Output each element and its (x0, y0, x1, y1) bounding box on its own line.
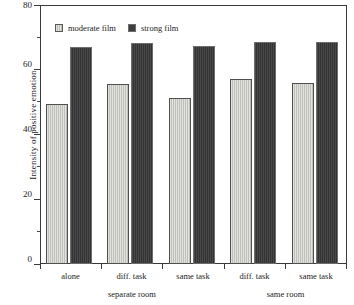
y-tick-label-0: 0 (12, 255, 32, 264)
legend-label-strong: strong film (141, 23, 179, 33)
y-tick-label-20: 20 (12, 190, 32, 199)
legend-swatch-moderate-icon (55, 24, 63, 32)
bar-strong-alone (70, 47, 92, 264)
x-tick-left-edge (40, 264, 41, 269)
bar-moderate-same-diff-task (230, 79, 252, 264)
x-category-label-4: same task (285, 271, 347, 281)
bar-moderate-separate-diff-task (107, 84, 129, 264)
x-tick-4 (285, 264, 286, 269)
legend-entry-moderate-film: moderate film (55, 23, 116, 33)
bar-moderate-separate-same-task (169, 98, 191, 264)
x-category-label-2: same task (162, 271, 224, 281)
x-tick-2 (162, 264, 163, 269)
bar-moderate-same-same-task (292, 83, 314, 264)
bar-moderate-alone (46, 104, 68, 264)
x-group-label-same-room: same room (224, 289, 347, 299)
bar-strong-separate-diff-task (131, 43, 153, 264)
x-tick-3 (224, 264, 225, 269)
legend-swatch-strong-icon (128, 24, 136, 32)
bar-strong-same-diff-task (254, 42, 276, 264)
bar-strong-separate-same-task (193, 46, 215, 264)
legend: moderate film strong film (55, 23, 178, 33)
y-tick-label-60: 60 (12, 60, 32, 69)
y-tick-label-80: 80 (12, 1, 32, 10)
legend-label-moderate: moderate film (68, 23, 116, 33)
y-tick-label-40: 40 (12, 125, 32, 134)
x-tick-right-edge (346, 264, 347, 269)
x-category-label-0: alone (40, 271, 101, 281)
bar-strong-same-same-task (316, 42, 338, 264)
bar-chart-figure: Intensity of positive emotion 80 60 40 2… (0, 0, 354, 305)
x-tick-1 (101, 264, 102, 269)
x-group-label-separate-room: separate room (40, 289, 224, 299)
legend-entry-strong-film: strong film (128, 23, 179, 33)
x-category-label-3: diff. task (224, 271, 285, 281)
x-category-label-1: diff. task (101, 271, 162, 281)
